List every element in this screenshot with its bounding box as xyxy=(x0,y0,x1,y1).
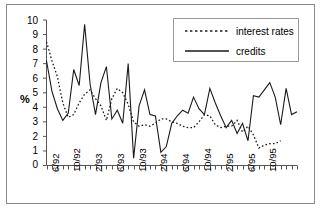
x-tick-label: 2/94 xyxy=(159,154,169,173)
legend-swatch-dotted xyxy=(184,25,230,37)
x-tick-label: 10/95 xyxy=(268,148,278,172)
chart-container: % 10 9 8 7 6 5 4 3 2 1 0 interest rates … xyxy=(0,0,321,209)
legend-label: credits xyxy=(236,46,265,58)
x-tick-label: 6/95 xyxy=(247,154,257,173)
legend-swatch-solid xyxy=(184,45,230,57)
x-tick-label: 10/93 xyxy=(138,148,148,172)
legend-item-interest-rates: interest rates xyxy=(174,22,300,42)
legend-item-credits: credits xyxy=(174,42,300,62)
x-tick-label: 10/94 xyxy=(203,148,213,172)
x-tick-marks xyxy=(48,166,298,170)
x-tick-label: 2/95 xyxy=(225,154,235,173)
x-tick-label: 10/92 xyxy=(72,148,82,172)
x-tick-label: 2/93 xyxy=(94,154,104,173)
x-tick-label: 6/93 xyxy=(116,154,126,173)
x-tick-label: 6/92 xyxy=(51,154,61,173)
y-tick-marks xyxy=(43,20,47,166)
legend-label: interest rates xyxy=(236,26,294,38)
legend: interest rates credits xyxy=(173,18,299,62)
x-tick-label: 6/94 xyxy=(181,154,191,173)
